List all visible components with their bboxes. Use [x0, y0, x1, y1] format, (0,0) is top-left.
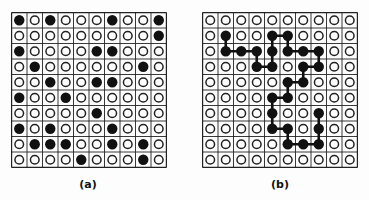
open-site [252, 155, 261, 164]
filled-site [107, 46, 117, 56]
open-site [330, 93, 339, 102]
filled-site [14, 15, 24, 25]
open-site [154, 124, 163, 133]
open-site [330, 47, 339, 56]
open-site [221, 93, 230, 102]
filled-site [154, 31, 164, 41]
open-site [61, 78, 70, 87]
open-site [330, 16, 339, 25]
open-site [283, 109, 292, 118]
open-site [15, 109, 24, 118]
open-site [330, 62, 339, 71]
open-site [237, 155, 246, 164]
open-site [123, 78, 132, 87]
open-site [139, 78, 148, 87]
open-site [77, 31, 86, 40]
filled-site [267, 108, 277, 118]
open-site [252, 140, 261, 149]
open-site [139, 109, 148, 118]
open-site [15, 62, 24, 71]
filled-site [45, 124, 55, 134]
open-site [237, 140, 246, 149]
open-site [139, 31, 148, 40]
open-site [30, 47, 39, 56]
open-site [77, 140, 86, 149]
open-site [314, 78, 323, 87]
open-site [252, 109, 261, 118]
panel-label-b: (b) [260, 178, 300, 191]
open-site [314, 31, 323, 40]
open-site [123, 93, 132, 102]
open-site [237, 78, 246, 87]
open-site [92, 62, 101, 71]
open-site [221, 124, 230, 133]
open-site [330, 109, 339, 118]
open-site [314, 93, 323, 102]
open-site [154, 78, 163, 87]
open-site [237, 62, 246, 71]
filled-site [314, 62, 324, 72]
open-site [123, 16, 132, 25]
open-site [123, 155, 132, 164]
open-site [237, 93, 246, 102]
open-site [123, 47, 132, 56]
filled-site [107, 77, 117, 87]
filled-site [76, 155, 86, 165]
open-site [61, 124, 70, 133]
open-site [30, 78, 39, 87]
open-site [330, 31, 339, 40]
filled-site [252, 46, 262, 56]
open-site [299, 109, 308, 118]
open-site [154, 93, 163, 102]
open-site [299, 16, 308, 25]
open-site [92, 155, 101, 164]
open-site [46, 31, 55, 40]
open-site [206, 78, 215, 87]
filled-site [283, 77, 293, 87]
open-site [345, 109, 354, 118]
filled-site [61, 93, 71, 103]
filled-site [138, 155, 148, 165]
filled-site [298, 62, 308, 72]
open-site [15, 155, 24, 164]
open-site [206, 155, 215, 164]
grid-a [11, 12, 167, 168]
open-site [330, 78, 339, 87]
open-site [345, 93, 354, 102]
filled-site [298, 139, 308, 149]
open-site [123, 124, 132, 133]
open-site [252, 93, 261, 102]
open-site [139, 124, 148, 133]
open-site [154, 140, 163, 149]
open-site [221, 155, 230, 164]
filled-site [298, 46, 308, 56]
filled-site [314, 139, 324, 149]
filled-site [92, 46, 102, 56]
open-site [252, 31, 261, 40]
open-site [77, 47, 86, 56]
open-site [139, 16, 148, 25]
open-site [206, 109, 215, 118]
filled-site [221, 31, 231, 41]
filled-site [14, 93, 24, 103]
open-site [345, 155, 354, 164]
filled-site [267, 46, 277, 56]
open-site [237, 124, 246, 133]
open-site [221, 140, 230, 149]
filled-site [45, 77, 55, 87]
open-site [314, 155, 323, 164]
open-site [61, 155, 70, 164]
open-site [299, 93, 308, 102]
open-site [108, 62, 117, 71]
open-site [46, 47, 55, 56]
open-site [77, 16, 86, 25]
open-site [123, 62, 132, 71]
open-site [237, 16, 246, 25]
open-site [330, 124, 339, 133]
open-site [77, 78, 86, 87]
open-site [139, 93, 148, 102]
filled-site [45, 139, 55, 149]
open-site [221, 78, 230, 87]
open-site [330, 155, 339, 164]
filled-site [138, 62, 148, 72]
